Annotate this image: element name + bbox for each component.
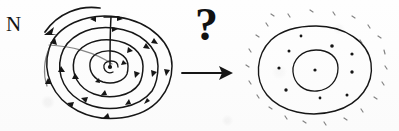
question-mark-label: ? <box>195 2 218 48</box>
interior-dot <box>346 94 349 97</box>
sketch-canvas: N ? <box>0 0 399 131</box>
interior-dot <box>350 70 353 73</box>
arrowhead <box>127 47 133 53</box>
spiral-arrowheads <box>45 16 170 119</box>
tick-mark <box>271 14 274 16</box>
transition-arrow <box>182 66 233 80</box>
spiral-diagram <box>44 7 172 119</box>
interior-dot <box>288 50 291 53</box>
interior-dot <box>300 35 303 38</box>
tick-mark <box>249 49 251 52</box>
interior-dot <box>284 88 287 91</box>
spiral-center-dot <box>108 65 112 69</box>
tick-mark <box>385 66 387 69</box>
tick-mark <box>285 116 287 119</box>
tick-mark <box>303 121 306 123</box>
tick-mark <box>352 16 355 18</box>
tick-mark <box>266 23 268 26</box>
tick-mark <box>310 10 313 12</box>
spiral-arm-third <box>73 40 143 97</box>
tick-mark <box>257 95 259 98</box>
radial-spoke <box>110 17 111 67</box>
tick-mark <box>269 107 272 109</box>
tick-mark <box>256 35 259 37</box>
interior-dot <box>330 44 334 48</box>
arrowhead <box>103 113 110 119</box>
blob-center-dot <box>313 68 316 71</box>
tick-mark <box>368 25 370 28</box>
interior-dot <box>319 97 322 100</box>
north-label: N <box>6 14 21 35</box>
blob-diagram <box>246 10 387 125</box>
arrowhead <box>134 71 140 78</box>
tick-mark <box>324 122 326 125</box>
tick-mark <box>249 81 251 84</box>
arrowhead <box>151 70 157 77</box>
arrowhead <box>151 38 158 44</box>
arrowhead <box>101 90 107 95</box>
tick-mark <box>384 50 385 54</box>
blob-exterior-ticks <box>246 10 387 125</box>
tick-mark <box>382 82 384 85</box>
arrowhead <box>164 69 170 76</box>
tick-mark <box>333 12 335 15</box>
tick-mark <box>344 118 347 120</box>
arrowhead <box>72 73 79 79</box>
tick-mark <box>374 97 377 99</box>
spiral-chord <box>49 45 112 64</box>
tick-mark <box>378 36 381 38</box>
tick-mark <box>288 14 290 17</box>
tick-mark <box>361 109 363 112</box>
interior-dot <box>277 66 280 69</box>
arrowhead <box>125 99 131 105</box>
interior-dot <box>350 52 353 55</box>
tick-mark <box>246 65 249 67</box>
arrowhead <box>121 60 127 65</box>
blob-interior-dots <box>277 35 353 100</box>
